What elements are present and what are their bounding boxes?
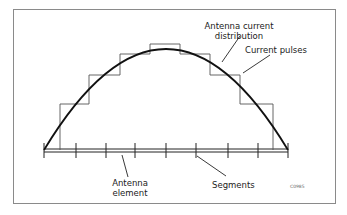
current-distribution-curve	[44, 49, 288, 150]
segments-label: Segments	[212, 180, 255, 190]
antenna-element-label: Antenna element	[110, 178, 150, 198]
current-distribution-label-line1: Antenna current	[204, 21, 274, 31]
antenna-element-label-line2: element	[110, 188, 150, 198]
current-distribution-label-line2: distribution	[204, 31, 274, 41]
current-pulses-steps	[60, 44, 273, 150]
current-pulses-label: Current pulses	[245, 45, 307, 55]
current-distribution-label: Antenna current distribution	[204, 21, 274, 41]
antenna-element-label-line1: Antenna	[110, 178, 150, 188]
antenna-diagram	[0, 0, 347, 215]
figure-code: C0985	[290, 184, 305, 189]
segment-ticks	[44, 143, 288, 158]
